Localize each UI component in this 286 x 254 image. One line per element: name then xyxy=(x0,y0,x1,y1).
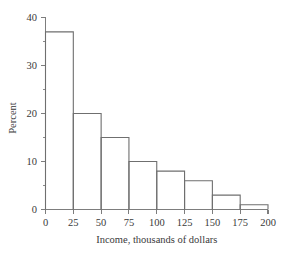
x-tick-label: 175 xyxy=(232,217,248,228)
y-tick-label: 40 xyxy=(27,12,38,23)
x-tick-label: 200 xyxy=(260,217,276,228)
histogram-figure: 0 10 20 30 40 Percent 0 25 50 75 100 xyxy=(0,0,286,254)
y-tick-label: 20 xyxy=(27,108,38,119)
x-tick-label: 50 xyxy=(96,217,107,228)
y-tick-label: 30 xyxy=(27,60,38,71)
histogram-plot: 0 10 20 30 40 Percent 0 25 50 75 100 xyxy=(0,0,286,254)
y-tick-label: 0 xyxy=(32,204,37,215)
x-tick-label: 100 xyxy=(149,217,165,228)
x-tick-label: 150 xyxy=(205,217,221,228)
x-axis-title: Income, thousands of dollars xyxy=(96,234,217,245)
x-tick-label: 75 xyxy=(124,217,135,228)
y-axis-title: Percent xyxy=(7,102,18,134)
x-axis-tick-labels: 0 25 50 75 100 125 150 175 200 xyxy=(43,217,276,228)
x-tick-label: 0 xyxy=(43,217,48,228)
y-tick-label: 10 xyxy=(27,156,38,167)
x-tick-label: 125 xyxy=(177,217,193,228)
x-tick-label: 25 xyxy=(68,217,79,228)
chart-background xyxy=(0,0,286,254)
